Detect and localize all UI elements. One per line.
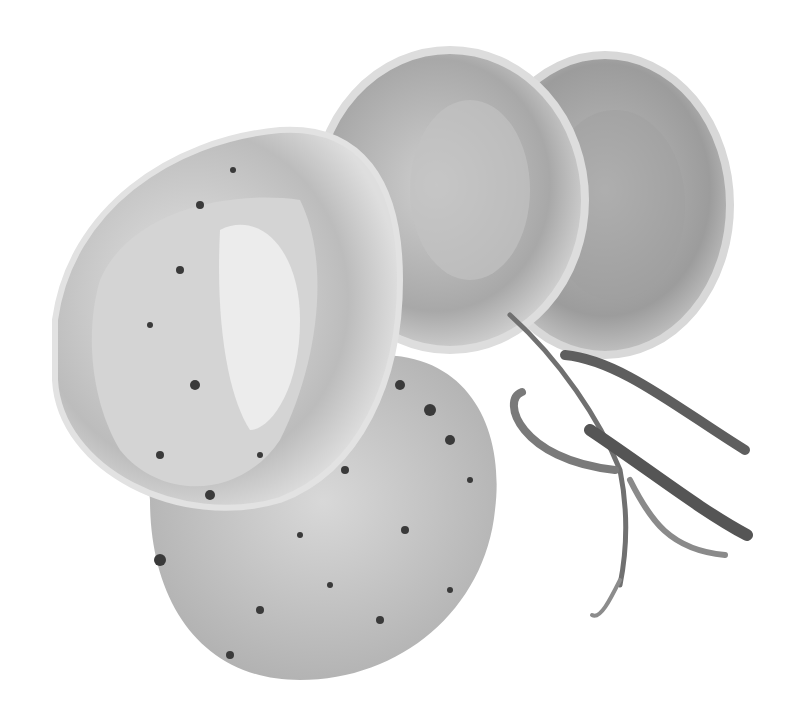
tarragon-sprig [510,315,747,616]
food-photo [0,0,798,728]
meat-slice-front [55,130,400,508]
